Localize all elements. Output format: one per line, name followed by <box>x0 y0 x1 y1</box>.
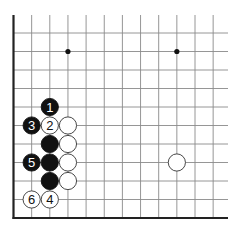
move-number: 3 <box>28 118 35 133</box>
white-stone-6: 6 <box>23 191 40 208</box>
go-board: 123456 <box>0 0 240 232</box>
white-stone <box>59 154 76 171</box>
white-stone-4: 4 <box>41 191 58 208</box>
star-point <box>174 49 179 54</box>
white-stone <box>59 172 76 189</box>
black-stone <box>41 154 58 171</box>
white-stone-2: 2 <box>41 117 58 134</box>
black-stone <box>41 135 58 152</box>
move-number: 4 <box>46 192 53 207</box>
star-point <box>65 49 70 54</box>
move-number: 1 <box>46 100 53 115</box>
white-stone <box>168 154 185 171</box>
black-stone-3: 3 <box>23 117 40 134</box>
white-stone <box>59 135 76 152</box>
black-stone-5: 5 <box>23 154 40 171</box>
black-stone-1: 1 <box>41 98 58 115</box>
black-stone <box>41 172 58 189</box>
white-stone <box>59 117 76 134</box>
move-number: 5 <box>28 155 35 170</box>
move-number: 2 <box>46 118 53 133</box>
move-number: 6 <box>28 192 35 207</box>
